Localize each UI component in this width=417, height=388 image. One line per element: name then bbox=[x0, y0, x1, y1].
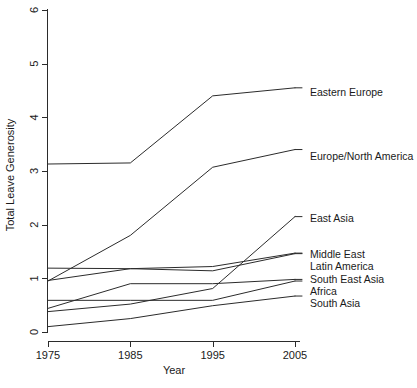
x-tick-label: 1985 bbox=[118, 349, 142, 361]
series-label-south-asia: South Asia bbox=[310, 297, 360, 309]
x-axis-title: Year bbox=[163, 364, 186, 376]
y-tick-label: 0 bbox=[28, 329, 40, 335]
y-tick-label: 3 bbox=[28, 168, 40, 174]
series-label-south-east-asia: South East Asia bbox=[310, 273, 384, 285]
series-label-latin-america: Latin America bbox=[310, 260, 374, 272]
series-line-latin-america bbox=[48, 254, 295, 271]
x-tick-label: 2005 bbox=[283, 349, 307, 361]
y-tick-label: 2 bbox=[28, 222, 40, 228]
x-axis-ticks: 1975198519952005 bbox=[36, 342, 307, 362]
series-label-middle-east: Middle East bbox=[310, 248, 365, 260]
y-axis-title: Total Leave Generosity bbox=[4, 118, 16, 231]
line-chart-figure: 0123456 1975198519952005 Year Total Leav… bbox=[0, 0, 417, 388]
series-label-eastern-europe: Eastern Europe bbox=[310, 86, 383, 98]
x-tick-label: 1995 bbox=[200, 349, 224, 361]
series-label-africa: Africa bbox=[310, 285, 337, 297]
y-tick-label: 6 bbox=[28, 7, 40, 13]
series-line-south-east-asia bbox=[48, 279, 295, 308]
y-tick-label: 5 bbox=[28, 61, 40, 67]
series-line-middle-east bbox=[48, 253, 295, 280]
x-tick-label: 1975 bbox=[36, 349, 60, 361]
y-tick-label: 4 bbox=[28, 114, 40, 120]
series-line-eastern-europe bbox=[48, 88, 295, 164]
chart-plot-area: 0123456 1975198519952005 Year Total Leav… bbox=[0, 0, 417, 388]
series-label-europe-north-america: Europe/North America bbox=[310, 150, 413, 162]
y-tick-label: 1 bbox=[28, 275, 40, 281]
y-axis-ticks: 0123456 bbox=[28, 7, 48, 335]
series-label-east-asia: East Asia bbox=[310, 212, 354, 224]
data-series-group bbox=[48, 88, 302, 327]
